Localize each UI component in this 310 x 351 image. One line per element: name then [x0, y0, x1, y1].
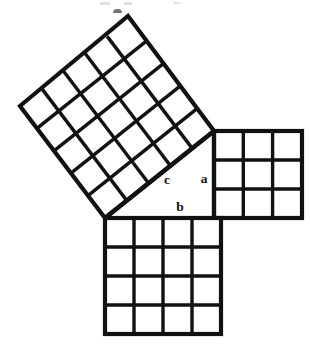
square-b-group: [105, 218, 221, 334]
label-b: b: [176, 199, 184, 214]
label-a: a: [201, 171, 208, 186]
label-c: c: [164, 172, 170, 187]
pythagorean-diagram: c a b: [0, 0, 310, 351]
square-a-outline: [214, 131, 302, 218]
square-c-group: [20, 16, 214, 218]
pythagorean-figure-svg: c a b: [0, 0, 310, 351]
square-a-group: [214, 131, 302, 218]
